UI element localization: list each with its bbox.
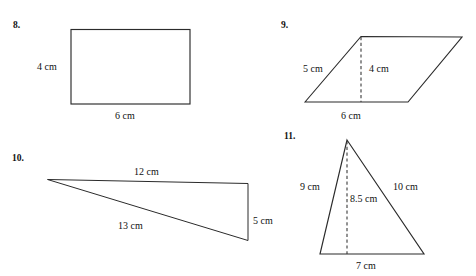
triangle-right-side-label: 10 cm xyxy=(393,181,418,192)
worksheet-canvas: 8. 4 cm 6 cm 9. 5 cm 4 cm 6 cm 10. 12 cm… xyxy=(0,0,476,276)
rectangle-height-label: 4 cm xyxy=(37,61,57,72)
problem-11-group: 11. 9 cm 8.5 cm 10 cm 7 cm xyxy=(284,131,424,271)
right-triangle-shape xyxy=(48,180,248,241)
triangle-height-label: 8.5 cm xyxy=(350,193,377,204)
right-triangle-hypotenuse-label: 13 cm xyxy=(118,220,143,231)
parallelogram-base-label: 6 cm xyxy=(341,110,361,121)
problem-9-group: 9. 5 cm 4 cm 6 cm xyxy=(281,20,462,121)
problem-8-group: 8. 4 cm 6 cm xyxy=(13,20,190,121)
rectangle-shape xyxy=(71,30,190,105)
right-triangle-top-label: 12 cm xyxy=(134,166,159,177)
problem-10-number: 10. xyxy=(12,153,24,163)
parallelogram-side-label: 5 cm xyxy=(303,63,323,74)
triangle-left-side-label: 9 cm xyxy=(300,181,320,192)
rectangle-width-label: 6 cm xyxy=(115,110,135,121)
triangle-base-label: 7 cm xyxy=(356,260,376,271)
problem-9-number: 9. xyxy=(281,20,288,30)
parallelogram-height-label: 4 cm xyxy=(369,63,389,74)
problem-10-group: 10. 12 cm 13 cm 5 cm xyxy=(12,153,273,240)
right-triangle-side-label: 5 cm xyxy=(253,215,273,226)
problem-8-number: 8. xyxy=(13,20,20,30)
problem-11-number: 11. xyxy=(284,131,295,141)
